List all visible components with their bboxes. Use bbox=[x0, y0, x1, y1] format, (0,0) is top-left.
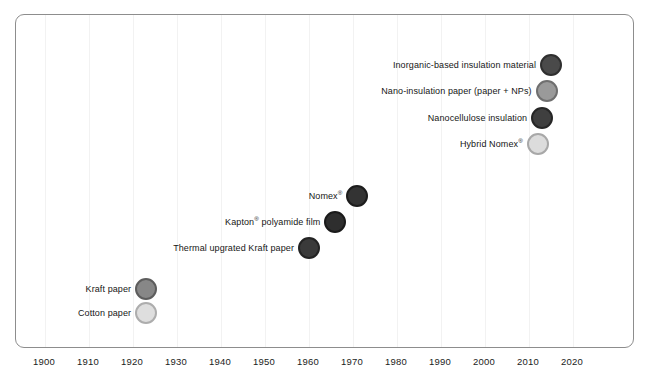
event-label: Kraft paper bbox=[86, 284, 132, 294]
event-label: Nanocellulose insulation bbox=[428, 113, 527, 123]
x-tick-label: 1930 bbox=[165, 356, 187, 367]
event-marker[interactable] bbox=[536, 80, 558, 102]
event-marker[interactable] bbox=[346, 185, 368, 207]
timeline-chart: Inorganic-based insulation materialNano-… bbox=[0, 0, 649, 390]
event-label: Kapton® polyamide film bbox=[225, 217, 320, 227]
gridline-1950 bbox=[265, 15, 266, 347]
x-tick-label: 1950 bbox=[253, 356, 275, 367]
plot-area: Inorganic-based insulation materialNano-… bbox=[15, 14, 634, 348]
x-tick-label: 2000 bbox=[473, 356, 495, 367]
event-marker[interactable] bbox=[527, 133, 549, 155]
x-tick-label: 2010 bbox=[517, 356, 539, 367]
event-marker[interactable] bbox=[324, 211, 346, 233]
gridline-1900 bbox=[45, 15, 46, 347]
event-label: Hybrid Nomex® bbox=[460, 139, 523, 149]
x-tick-label: 1910 bbox=[77, 356, 99, 367]
gridline-1940 bbox=[221, 15, 222, 347]
event-marker[interactable] bbox=[540, 54, 562, 76]
event-marker[interactable] bbox=[298, 237, 320, 259]
gridline-2020 bbox=[573, 15, 574, 347]
x-tick-label: 1940 bbox=[209, 356, 231, 367]
x-tick-label: 1990 bbox=[429, 356, 451, 367]
gridline-1920 bbox=[133, 15, 134, 347]
x-tick-label: 1900 bbox=[33, 356, 55, 367]
event-label: Nomex® bbox=[309, 191, 343, 201]
event-marker[interactable] bbox=[135, 302, 157, 324]
gridline-1960 bbox=[309, 15, 310, 347]
event-label: Thermal upgrated Kraft paper bbox=[173, 243, 294, 253]
gridline-1970 bbox=[353, 15, 354, 347]
event-marker[interactable] bbox=[135, 278, 157, 300]
x-tick-label: 1970 bbox=[341, 356, 363, 367]
x-tick-label: 1960 bbox=[297, 356, 319, 367]
gridline-1930 bbox=[177, 15, 178, 347]
x-tick-label: 2020 bbox=[561, 356, 583, 367]
event-label: Cotton paper bbox=[78, 308, 131, 318]
x-tick-label: 1920 bbox=[121, 356, 143, 367]
event-label: Inorganic-based insulation material bbox=[393, 60, 536, 70]
event-marker[interactable] bbox=[531, 107, 553, 129]
gridline-1910 bbox=[89, 15, 90, 347]
x-tick-label: 1980 bbox=[385, 356, 407, 367]
event-label: Nano-insulation paper (paper + NPs) bbox=[381, 86, 531, 96]
